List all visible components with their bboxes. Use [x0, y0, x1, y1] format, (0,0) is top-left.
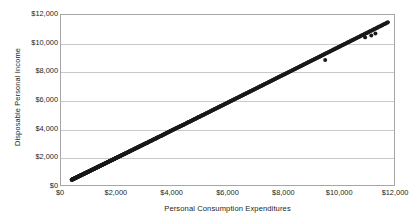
y-tick-label: $6,000 [10, 96, 58, 104]
x-tick-label: $10,000 [309, 188, 369, 198]
scatter-series [61, 15, 394, 185]
x-tick-label: $0 [30, 188, 90, 198]
x-axis-title: Personal Consumption Expenditures [60, 204, 395, 213]
x-tick-label: $8,000 [253, 188, 313, 198]
plot-area [60, 14, 395, 186]
y-tick-label: $8,000 [10, 67, 58, 75]
x-tick-label: $12,000 [365, 188, 416, 198]
data-point [386, 20, 390, 24]
outlier-point [363, 35, 367, 39]
outlier-point [369, 33, 373, 37]
x-tick-label: $4,000 [142, 188, 202, 198]
scatter-chart: Disposable Personal Income $0$2,000$4,00… [0, 0, 416, 221]
outlier-point [323, 58, 327, 62]
y-tick-label: $12,000 [10, 10, 58, 18]
y-tick-label: $4,000 [10, 125, 58, 133]
x-tick-label: $6,000 [198, 188, 258, 198]
y-tick-label: $2,000 [10, 153, 58, 161]
x-axis-tick-labels: $0$2,000$4,000$6,000$8,000$10,000$12,000 [0, 188, 416, 200]
outlier-point [373, 32, 377, 36]
x-tick-label: $2,000 [86, 188, 146, 198]
y-tick-label: $10,000 [10, 39, 58, 47]
